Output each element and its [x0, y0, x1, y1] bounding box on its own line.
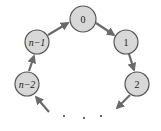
- node-n-1: n−1: [25, 30, 49, 54]
- node-1: 1: [114, 30, 138, 54]
- edge-n-2-to-n-1: [29, 56, 34, 71]
- node-label: n−2: [19, 79, 36, 90]
- node-label: n−1: [29, 37, 46, 48]
- node-0: 0: [70, 6, 96, 32]
- edge-2-to-ellipsis: [117, 95, 130, 108]
- node-label: 0: [81, 14, 86, 25]
- circular-list-diagram: n−2 n−1 0 1 2: [0, 0, 161, 131]
- edge-ellipsis-to-n-2: [36, 97, 49, 112]
- node-label: 2: [135, 79, 140, 90]
- edge-1-to-2: [129, 54, 134, 70]
- edge-n-1-to-0: [48, 23, 68, 35]
- node-label: 1: [124, 37, 129, 48]
- ellipsis-dots: [63, 115, 102, 119]
- node-n-2: n−2: [15, 72, 39, 96]
- node-2: 2: [125, 72, 149, 96]
- edge-0-to-1: [96, 23, 114, 35]
